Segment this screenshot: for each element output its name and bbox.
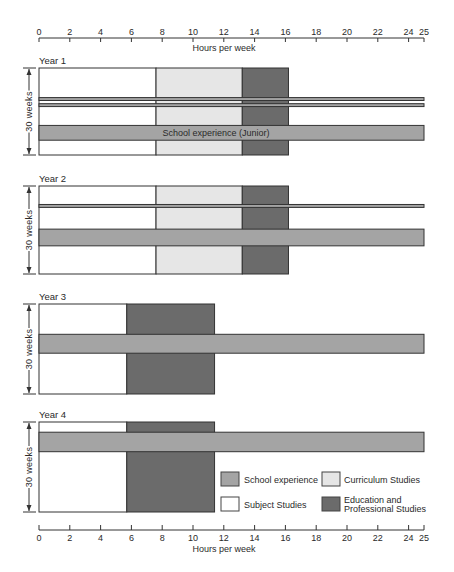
bottom-x-tick-label: 18 bbox=[311, 533, 321, 543]
top-x-tick-label: 10 bbox=[188, 27, 198, 37]
school-experience-bar bbox=[39, 334, 424, 353]
bottom-x-tick-label: 16 bbox=[280, 533, 290, 543]
column-curriculum-studies bbox=[156, 68, 242, 155]
school-experience-bar bbox=[39, 432, 424, 452]
top-x-tick-label: 24 bbox=[404, 27, 414, 37]
weeks-axis-label: 30 weeks bbox=[24, 91, 34, 132]
bottom-x-tick-label: 4 bbox=[98, 533, 103, 543]
column-education-and-professional-studies bbox=[242, 68, 288, 155]
school-experience-bar bbox=[39, 98, 424, 101]
chart-canvas: 02468101214161820222425Hours per week024… bbox=[0, 0, 454, 572]
weeks-axis-label: 30 weeks bbox=[24, 329, 34, 370]
legend-swatch-education-and-professional-studies bbox=[322, 497, 340, 511]
legend-label-subject-studies: Subject Studies bbox=[244, 500, 307, 510]
top-x-tick-label: 18 bbox=[311, 27, 321, 37]
bottom-x-tick-label: 12 bbox=[219, 533, 229, 543]
top-x-axis-title: Hours per week bbox=[192, 43, 256, 53]
bottom-x-tick-label: 10 bbox=[188, 533, 198, 543]
top-x-tick-label: 20 bbox=[342, 27, 352, 37]
bottom-x-tick-label: 22 bbox=[373, 533, 383, 543]
arrow-down-icon bbox=[27, 505, 32, 511]
arrow-down-icon bbox=[27, 387, 32, 393]
bottom-x-tick-label: 25 bbox=[419, 533, 429, 543]
weeks-axis-label: 30 weeks bbox=[24, 210, 34, 251]
school-experience-bar bbox=[39, 204, 424, 207]
school-experience-bar-label: School experience (Junior) bbox=[162, 128, 269, 138]
top-x-tick-label: 4 bbox=[98, 27, 103, 37]
bottom-x-tick-label: 8 bbox=[160, 533, 165, 543]
school-experience-bar bbox=[39, 229, 424, 246]
bottom-x-tick-label: 2 bbox=[67, 533, 72, 543]
top-x-tick-label: 16 bbox=[280, 27, 290, 37]
legend-label-education-and-professional-studies: Professional Studies bbox=[344, 504, 427, 514]
arrow-down-icon bbox=[27, 148, 32, 154]
top-x-tick-label: 12 bbox=[219, 27, 229, 37]
panel-label-year-1: Year 1 bbox=[39, 55, 66, 66]
arrow-up-icon bbox=[27, 69, 32, 75]
legend-swatch-school-experience bbox=[221, 472, 239, 486]
legend-label-curriculum-studies: Curriculum Studies bbox=[344, 475, 421, 485]
top-x-tick-label: 2 bbox=[67, 27, 72, 37]
column-subject-studies bbox=[39, 68, 156, 155]
panel-label-year-2: Year 2 bbox=[39, 173, 66, 184]
top-x-tick-label: 0 bbox=[36, 27, 41, 37]
course-structure-chart: 02468101214161820222425Hours per week024… bbox=[0, 0, 454, 572]
top-x-tick-label: 14 bbox=[250, 27, 260, 37]
school-experience-bar bbox=[39, 104, 424, 107]
top-x-tick-label: 22 bbox=[373, 27, 383, 37]
top-x-tick-label: 25 bbox=[419, 27, 429, 37]
weeks-axis-label: 30 weeks bbox=[24, 447, 34, 488]
bottom-x-axis-title: Hours per week bbox=[192, 544, 256, 554]
bottom-x-tick-label: 6 bbox=[129, 533, 134, 543]
legend-swatch-curriculum-studies bbox=[322, 472, 340, 486]
bottom-x-tick-label: 20 bbox=[342, 533, 352, 543]
arrow-up-icon bbox=[27, 187, 32, 193]
top-x-tick-label: 6 bbox=[129, 27, 134, 37]
arrow-down-icon bbox=[27, 267, 32, 273]
bottom-x-tick-label: 0 bbox=[36, 533, 41, 543]
bottom-x-tick-label: 24 bbox=[404, 533, 414, 543]
bottom-x-tick-label: 14 bbox=[250, 533, 260, 543]
arrow-up-icon bbox=[27, 423, 32, 429]
arrow-up-icon bbox=[27, 305, 32, 311]
top-x-tick-label: 8 bbox=[160, 27, 165, 37]
legend-label-school-experience: School experience bbox=[244, 475, 318, 485]
panel-label-year-4: Year 4 bbox=[39, 409, 66, 420]
panel-label-year-3: Year 3 bbox=[39, 291, 66, 302]
legend-swatch-subject-studies bbox=[221, 497, 239, 511]
